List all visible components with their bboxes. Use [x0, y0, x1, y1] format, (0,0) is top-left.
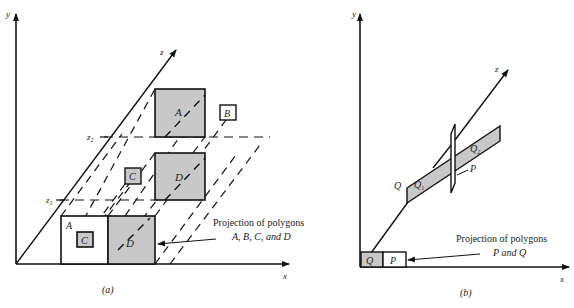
annotation-a-line2: A, B, C, and D	[231, 231, 291, 242]
label-A-proj: A	[65, 220, 73, 231]
y-axis-label-b: y	[351, 9, 356, 19]
projection-diagram: y x z z2 z1 A D B C A C D Projection of …	[0, 0, 574, 308]
label-C-space: C	[129, 171, 136, 182]
label-Q: Q	[394, 180, 402, 191]
label-D-space: D	[174, 171, 183, 183]
z-axis-label-b: z	[494, 64, 499, 74]
z-axis-label-a: z	[159, 47, 164, 57]
caption-a: (a)	[102, 284, 114, 296]
z2-label: z2	[86, 132, 94, 143]
y-axis-label-a: y	[5, 9, 10, 19]
annotation-a-line1: Projection of polygons	[213, 217, 304, 228]
z1-label: z1	[45, 195, 53, 206]
x-axis-label-a: x	[282, 271, 287, 281]
polygon-P-plane	[451, 124, 455, 193]
annotation-b-line1: Projection of polygons	[456, 233, 547, 244]
label-A-space: A	[174, 106, 182, 118]
caption-b: (b)	[460, 287, 472, 299]
figure-a: y x z z2 z1 A D B C A C D Projection of …	[5, 9, 304, 296]
annotation-arrow-a	[158, 239, 216, 244]
label-C-proj: C	[81, 235, 88, 246]
label-D-proj: D	[125, 237, 134, 249]
label-B-space: B	[224, 108, 230, 119]
annotation-arrow-b	[408, 254, 480, 260]
annotation-b-line2: P and Q	[492, 247, 527, 258]
label-Q-proj: Q	[366, 255, 374, 266]
figure-b: y x z Q Q1 Q2 P Q P Projection of polygo…	[351, 9, 569, 299]
x-axis-label-b: x	[559, 274, 564, 284]
z-axis-b-lower	[371, 202, 408, 253]
label-P-proj: P	[389, 255, 396, 266]
label-P: P	[469, 163, 476, 174]
